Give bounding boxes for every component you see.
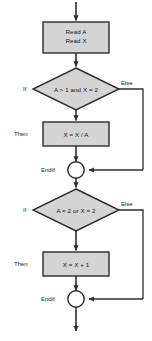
flowchart-graphics bbox=[0, 0, 152, 341]
endif-1-label: Endif bbox=[41, 167, 55, 173]
decision-1-if-label: If bbox=[23, 86, 26, 92]
decision-2-if-label: If bbox=[23, 207, 26, 213]
endif-2-label: Endif bbox=[41, 296, 55, 302]
decision-2-else-label: Else bbox=[121, 201, 133, 207]
endif-2-shape bbox=[68, 291, 84, 307]
read-box-line1: Read A bbox=[43, 28, 109, 36]
decision-1-else-label: Else bbox=[121, 80, 133, 86]
endif-1-shape bbox=[68, 162, 84, 178]
flowchart-canvas: Read A Read X If A > 1 and X = 2 Else Th… bbox=[0, 0, 152, 341]
process-2-then-label: Then bbox=[14, 261, 28, 267]
process-2-statement: X = X + 1 bbox=[43, 261, 109, 269]
process-1-statement: X = X / A bbox=[43, 131, 109, 139]
process-1-then-label: Then bbox=[14, 131, 28, 137]
decision-1-condition: A > 1 and X = 2 bbox=[36, 86, 116, 94]
read-box-line2: Read X bbox=[43, 37, 109, 45]
decision-2-condition: A = 2 or X = 2 bbox=[36, 207, 116, 215]
